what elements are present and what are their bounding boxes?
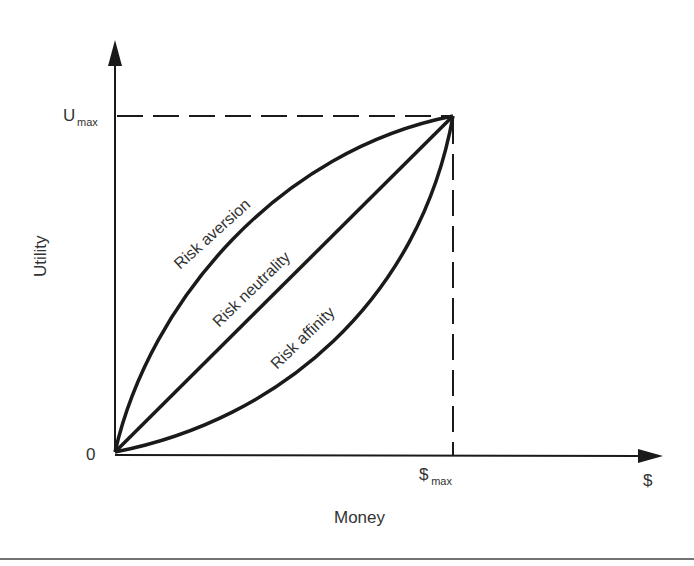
x-unit-label: $ [643,471,653,490]
utility-curves-diagram: 0 U max $ max $ Money Utility Risk avers… [0,0,694,566]
umax-label: U max [63,106,98,128]
origin-label: 0 [86,445,95,464]
x-axis-arrow-icon [638,449,663,463]
x-axis [115,455,642,456]
y-axis-title: Utility [31,235,50,277]
smax-sub: max [431,475,452,487]
smax-main: $ [419,465,429,484]
smax-label: $ max [419,465,452,487]
risk-affinity-label: Risk affinity [267,303,337,372]
umax-main: U [63,106,75,125]
x-axis-title: Money [334,508,386,527]
risk-neutrality-line [115,116,453,452]
umax-sub: max [77,116,98,128]
y-axis-arrow-icon [108,40,122,66]
